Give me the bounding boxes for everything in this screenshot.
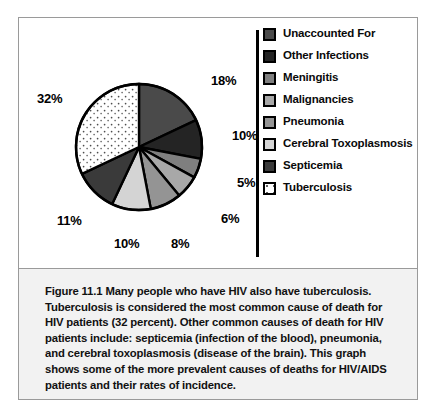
pie-chart: 18%10%5%6%8%10%11%32% (19, 18, 257, 269)
legend-item[interactable]: Cerebral Toxoplasmosis (263, 137, 413, 154)
figure-number: Figure 11.1 (45, 285, 102, 297)
chart-legend: Unaccounted ForOther InfectionsMeningiti… (263, 27, 413, 203)
figure-frame: 18%10%5%6%8%10%11%32% Unaccounted ForOth… (18, 17, 418, 400)
pie-value-label: 32% (37, 91, 62, 106)
legend-item-label: Meningitis (283, 71, 338, 85)
legend-swatch-icon (263, 138, 276, 151)
pie-slice-group (76, 84, 202, 210)
caption-panel: Figure 11.1 Many people who have HIV als… (19, 270, 417, 399)
legend-item[interactable]: Other Infections (263, 49, 413, 66)
pie-value-label: 10% (114, 236, 139, 251)
legend-item[interactable]: Tuberculosis (263, 181, 413, 198)
legend-swatch-icon (263, 182, 276, 195)
legend-divider (256, 30, 259, 257)
legend-swatch-icon (263, 116, 276, 129)
pie-value-label: 5% (237, 175, 255, 190)
legend-swatch-icon (263, 50, 276, 63)
legend-item-label: Other Infections (283, 49, 369, 63)
legend-swatch-icon (263, 94, 276, 107)
pie-value-label: 6% (221, 211, 239, 226)
pie-chart-svg (19, 18, 257, 269)
pie-value-label: 18% (211, 73, 236, 88)
legend-item[interactable]: Meningitis (263, 71, 413, 88)
legend-item-label: Tuberculosis (283, 181, 352, 195)
legend-item-label: Septicemia (283, 159, 342, 173)
legend-item-label: Unaccounted For (283, 27, 375, 41)
legend-item[interactable]: Pneumonia (263, 115, 413, 132)
legend-item-label: Malignancies (283, 93, 353, 107)
pie-value-label: 11% (57, 213, 82, 228)
legend-item-label: Pneumonia (283, 115, 344, 129)
chart-panel: 18%10%5%6%8%10%11%32% Unaccounted ForOth… (19, 18, 417, 269)
legend-item-label: Cerebral Toxoplasmosis (283, 137, 412, 151)
pie-value-label: 10% (232, 128, 257, 143)
legend-item[interactable]: Unaccounted For (263, 27, 413, 44)
figure-caption-text: Many people who have HIV also have tuber… (45, 285, 387, 391)
pie-value-label: 8% (171, 236, 189, 251)
legend-item[interactable]: Septicemia (263, 159, 413, 176)
legend-item[interactable]: Malignancies (263, 93, 413, 110)
legend-swatch-icon (263, 72, 276, 85)
legend-swatch-icon (263, 28, 276, 41)
figure-caption: Figure 11.1 Many people who have HIV als… (45, 284, 393, 393)
legend-swatch-icon (263, 160, 276, 173)
